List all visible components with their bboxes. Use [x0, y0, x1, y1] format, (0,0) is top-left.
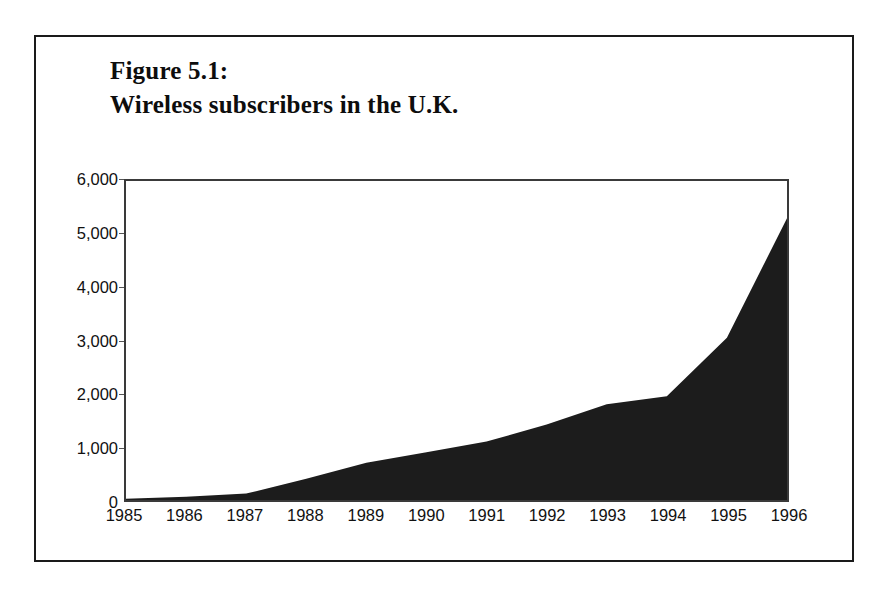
x-tick-label: 1994 — [650, 506, 687, 525]
x-tick-label: 1992 — [529, 506, 566, 525]
area-chart: 01,0002,0003,0004,0005,0006,000 19851986… — [56, 142, 836, 542]
y-axis: 01,0002,0003,0004,0005,0006,000 — [56, 142, 118, 542]
y-tick-label: 3,000 — [56, 331, 118, 350]
x-tick-label: 1993 — [589, 506, 626, 525]
area-series-wireless-subscribers — [126, 181, 787, 500]
x-tick-label: 1986 — [166, 506, 203, 525]
x-tick-label: 1990 — [408, 506, 445, 525]
x-tick-label: 1987 — [227, 506, 264, 525]
figure-frame: Figure 5.1: Wireless subscribers in the … — [34, 35, 854, 562]
x-tick-label: 1985 — [106, 506, 143, 525]
x-tick-label: 1989 — [347, 506, 384, 525]
figure-title-line-1: Figure 5.1: — [110, 54, 710, 88]
x-axis: 1985198619871988198919901991199219931994… — [124, 506, 789, 536]
figure-title: Figure 5.1: Wireless subscribers in the … — [110, 54, 710, 122]
y-tick-label: 5,000 — [56, 223, 118, 242]
y-tick-label: 2,000 — [56, 385, 118, 404]
x-tick-label: 1995 — [710, 506, 747, 525]
plot-area — [124, 179, 789, 502]
y-tick-label: 6,000 — [56, 170, 118, 189]
x-tick-label: 1996 — [771, 506, 808, 525]
x-tick-label: 1988 — [287, 506, 324, 525]
figure-title-line-2: Wireless subscribers in the U.K. — [110, 88, 710, 122]
x-tick-label: 1991 — [468, 506, 505, 525]
y-tick-label: 4,000 — [56, 277, 118, 296]
y-tick-label: 1,000 — [56, 439, 118, 458]
